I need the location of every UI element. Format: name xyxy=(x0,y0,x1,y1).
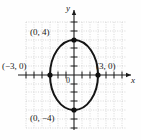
vertex-point-left xyxy=(47,72,52,77)
label-right-vertex: (3, 0) xyxy=(96,62,116,71)
label-top-vertex: (0, 4) xyxy=(30,28,50,37)
vertex-point-top xyxy=(71,37,76,42)
x-axis-label: x xyxy=(131,76,135,85)
label-left-vertex: (−3, 0) xyxy=(2,62,27,71)
label-bottom-vertex: (0, −4) xyxy=(30,114,55,123)
vertex-point-right xyxy=(95,72,100,77)
y-axis-label: y xyxy=(66,4,70,13)
vertex-point-bottom xyxy=(71,107,76,112)
ellipse-graph-figure: (0, 4) (3, 0) (−3, 0) (0, −4) 0 y x xyxy=(0,0,141,140)
origin-label: 0 xyxy=(66,77,70,85)
